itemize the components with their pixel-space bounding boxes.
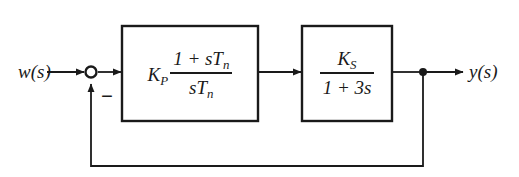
feedback-minus-sign: − (101, 86, 113, 107)
plant-numerator-subscript: S (350, 57, 356, 72)
controller-denominator: sTn (186, 77, 216, 99)
controller-gain-subscript: P (160, 72, 168, 87)
controller-transfer-function: KP 1 + sTn sTn (122, 26, 258, 121)
diagram-canvas (0, 0, 519, 177)
plant-numerator-text: K (337, 48, 350, 69)
controller-fraction: 1 + sTn sTn (170, 48, 232, 99)
output-signal-label: y(s) (469, 62, 497, 81)
controller-gain-symbol: K (148, 64, 161, 85)
control-block-diagram: w(s) y(s) − KP 1 + sTn sTn KS 1 + 3s (0, 0, 519, 177)
controller-denominator-text: sT (189, 77, 207, 98)
plant-transfer-function: KS 1 + 3s (302, 26, 392, 121)
controller-numerator: 1 + sTn (170, 48, 232, 70)
plant-numerator: KS (334, 48, 359, 70)
controller-fraction-bar (170, 72, 232, 74)
plant-fraction-bar (320, 72, 375, 74)
summing-junction (86, 67, 97, 78)
plant-denominator: 1 + 3s (320, 77, 375, 99)
controller-gain: KP (148, 64, 169, 86)
input-signal-label: w(s) (18, 62, 51, 81)
controller-denominator-subscript: n (207, 85, 213, 100)
plant-fraction: KS 1 + 3s (320, 48, 375, 99)
controller-numerator-text: 1 + sT (173, 48, 223, 69)
controller-numerator-subscript: n (223, 57, 229, 72)
